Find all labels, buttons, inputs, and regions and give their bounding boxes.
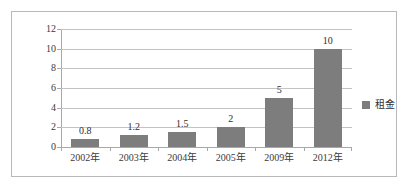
x-axis-tick-mark [304,147,305,151]
x-axis-category-label: 2002年 [70,153,100,163]
bar-group: 1.5 [158,29,207,147]
bar[interactable] [71,139,99,147]
x-axis-tick-mark [61,147,62,151]
bar-value-label: 1.5 [176,119,189,129]
x-axis-category-label: 2004年 [167,153,197,163]
bar[interactable] [120,135,148,147]
y-axis-tick-label: 0 [51,142,56,152]
x-axis-tick-mark [158,147,159,151]
chart-legend: 租金 [362,100,395,110]
bar[interactable] [217,127,245,147]
chart-frame: 024681012 0.81.21.52510 2002年2003年2004年2… [11,11,397,177]
y-axis-tick-label: 4 [51,103,56,113]
y-axis-tick-label: 2 [51,122,56,132]
bar-value-label: 5 [277,85,282,95]
x-axis-tick-marks [61,147,352,152]
x-axis-tick-mark [351,147,352,151]
x-axis-tick-mark [255,147,256,151]
bar-group: 0.8 [61,29,110,147]
y-axis-tick-label: 10 [46,44,56,54]
x-axis-category-label: 2012年 [313,153,343,163]
x-axis-category-labels: 2002年2003年2004年2005年2009年2012年 [61,153,352,169]
x-axis-category-label: 2009年 [264,153,294,163]
bar-group: 1.2 [110,29,159,147]
legend-swatch-icon [362,101,370,109]
bar-group: 2 [207,29,256,147]
x-axis-category-label: 2003年 [119,153,149,163]
legend-label: 租金 [375,100,395,110]
y-axis-tick-mark [57,29,61,30]
bar[interactable] [168,132,196,147]
bar-group: 10 [304,29,353,147]
y-axis-tick-label: 6 [51,83,56,93]
y-axis-tick-mark [57,127,61,128]
x-axis-tick-mark [110,147,111,151]
y-axis-tick-mark [57,49,61,50]
bar[interactable] [314,49,342,147]
y-axis-tick-mark [57,147,61,148]
bar-group: 5 [255,29,304,147]
y-axis-tick-mark [57,108,61,109]
bar-value-label: 10 [323,36,333,46]
y-axis-tick-labels: 024681012 [12,29,56,147]
x-axis-category-label: 2005年 [216,153,246,163]
plot-area: 0.81.21.52510 [61,29,352,147]
y-axis-tick-mark [57,68,61,69]
y-axis-tick-label: 12 [46,24,56,34]
x-axis-tick-mark [207,147,208,151]
bar-value-label: 1.2 [128,122,141,132]
bar[interactable] [265,98,293,147]
y-axis-tick-mark [57,88,61,89]
bar-value-label: 2 [228,114,233,124]
bar-value-label: 0.8 [79,126,92,136]
y-axis-tick-label: 8 [51,63,56,73]
